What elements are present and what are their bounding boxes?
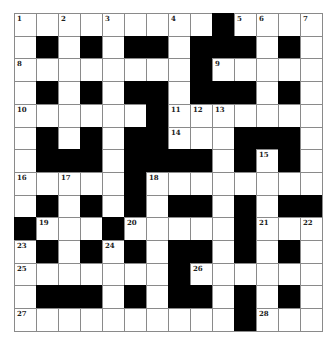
answer-cell[interactable] [300, 149, 322, 172]
answer-cell[interactable] [256, 58, 278, 81]
answer-cell[interactable] [168, 217, 190, 240]
answer-cell[interactable]: 5 [234, 13, 256, 36]
answer-cell[interactable] [80, 263, 102, 286]
answer-cell[interactable] [124, 13, 146, 36]
answer-cell[interactable] [102, 36, 124, 59]
answer-cell[interactable]: 25 [14, 263, 36, 286]
answer-cell[interactable]: 26 [190, 263, 212, 286]
answer-cell[interactable] [212, 263, 234, 286]
answer-cell[interactable] [212, 195, 234, 218]
answer-cell[interactable] [300, 127, 322, 150]
answer-cell[interactable] [102, 104, 124, 127]
answer-cell[interactable] [212, 285, 234, 308]
answer-cell[interactable]: 10 [14, 104, 36, 127]
answer-cell[interactable] [190, 127, 212, 150]
answer-cell[interactable] [14, 285, 36, 308]
answer-cell[interactable] [146, 285, 168, 308]
answer-cell[interactable] [58, 308, 80, 331]
answer-cell[interactable] [102, 149, 124, 172]
answer-cell[interactable] [58, 217, 80, 240]
answer-cell[interactable]: 20 [124, 217, 146, 240]
answer-cell[interactable] [146, 58, 168, 81]
answer-cell[interactable] [168, 36, 190, 59]
answer-cell[interactable]: 12 [190, 104, 212, 127]
answer-cell[interactable] [36, 13, 58, 36]
answer-cell[interactable] [234, 58, 256, 81]
answer-cell[interactable] [80, 217, 102, 240]
answer-cell[interactable] [256, 104, 278, 127]
answer-cell[interactable] [278, 308, 300, 331]
answer-cell[interactable]: 3 [102, 13, 124, 36]
answer-cell[interactable] [168, 58, 190, 81]
answer-cell[interactable] [146, 13, 168, 36]
answer-cell[interactable] [124, 58, 146, 81]
answer-cell[interactable] [80, 104, 102, 127]
answer-cell[interactable]: 18 [146, 172, 168, 195]
answer-cell[interactable] [212, 217, 234, 240]
answer-cell[interactable] [278, 58, 300, 81]
answer-cell[interactable] [58, 195, 80, 218]
answer-cell[interactable]: 24 [102, 240, 124, 263]
answer-cell[interactable] [168, 81, 190, 104]
answer-cell[interactable] [190, 217, 212, 240]
answer-cell[interactable] [190, 13, 212, 36]
answer-cell[interactable] [80, 58, 102, 81]
answer-cell[interactable]: 14 [168, 127, 190, 150]
answer-cell[interactable] [234, 104, 256, 127]
answer-cell[interactable] [278, 104, 300, 127]
answer-cell[interactable] [168, 308, 190, 331]
answer-cell[interactable] [300, 58, 322, 81]
answer-cell[interactable] [36, 172, 58, 195]
answer-cell[interactable] [212, 240, 234, 263]
answer-cell[interactable] [102, 81, 124, 104]
answer-cell[interactable] [300, 172, 322, 195]
answer-cell[interactable] [102, 263, 124, 286]
answer-cell[interactable]: 17 [58, 172, 80, 195]
answer-cell[interactable] [58, 104, 80, 127]
answer-cell[interactable]: 23 [14, 240, 36, 263]
answer-cell[interactable] [234, 263, 256, 286]
answer-cell[interactable] [278, 217, 300, 240]
answer-cell[interactable] [212, 127, 234, 150]
answer-cell[interactable]: 11 [168, 104, 190, 127]
answer-cell[interactable] [58, 81, 80, 104]
answer-cell[interactable]: 2 [58, 13, 80, 36]
answer-cell[interactable] [80, 13, 102, 36]
answer-cell[interactable] [102, 58, 124, 81]
answer-cell[interactable] [146, 308, 168, 331]
answer-cell[interactable] [256, 36, 278, 59]
answer-cell[interactable]: 16 [14, 172, 36, 195]
answer-cell[interactable]: 9 [212, 58, 234, 81]
answer-cell[interactable] [212, 308, 234, 331]
answer-cell[interactable] [58, 240, 80, 263]
answer-cell[interactable] [58, 36, 80, 59]
answer-cell[interactable] [256, 195, 278, 218]
answer-cell[interactable]: 19 [36, 217, 58, 240]
answer-cell[interactable] [36, 263, 58, 286]
answer-cell[interactable] [58, 263, 80, 286]
answer-cell[interactable]: 13 [212, 104, 234, 127]
answer-cell[interactable] [14, 127, 36, 150]
answer-cell[interactable] [146, 195, 168, 218]
answer-cell[interactable] [168, 172, 190, 195]
answer-cell[interactable] [300, 240, 322, 263]
answer-cell[interactable] [300, 104, 322, 127]
answer-cell[interactable] [124, 308, 146, 331]
answer-cell[interactable]: 28 [256, 308, 278, 331]
answer-cell[interactable] [124, 104, 146, 127]
answer-cell[interactable] [146, 263, 168, 286]
answer-cell[interactable] [300, 36, 322, 59]
answer-cell[interactable] [256, 172, 278, 195]
answer-cell[interactable] [14, 149, 36, 172]
answer-cell[interactable] [58, 127, 80, 150]
answer-cell[interactable]: 6 [256, 13, 278, 36]
answer-cell[interactable]: 4 [168, 13, 190, 36]
answer-cell[interactable] [80, 172, 102, 195]
answer-cell[interactable] [278, 13, 300, 36]
answer-cell[interactable] [234, 172, 256, 195]
answer-cell[interactable] [36, 104, 58, 127]
answer-cell[interactable] [300, 263, 322, 286]
answer-cell[interactable]: 7 [300, 13, 322, 36]
answer-cell[interactable] [256, 285, 278, 308]
answer-cell[interactable] [102, 308, 124, 331]
